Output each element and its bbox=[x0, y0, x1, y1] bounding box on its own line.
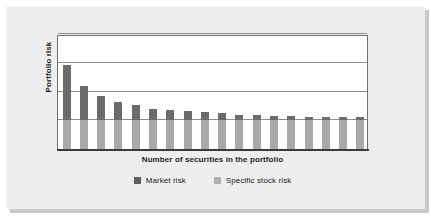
bar-segment-specific-stock-risk bbox=[356, 120, 364, 149]
bar-segment-specific-stock-risk bbox=[305, 120, 313, 149]
gridline bbox=[58, 33, 367, 34]
bar-segment-market-risk bbox=[63, 65, 71, 120]
legend-item-label: Specific stock risk bbox=[226, 176, 291, 185]
x-axis-baseline bbox=[57, 149, 369, 151]
bar-segment-market-risk bbox=[253, 115, 261, 120]
plot-area bbox=[57, 35, 368, 150]
bar-column bbox=[305, 117, 313, 149]
legend-item-label: Market risk bbox=[146, 176, 186, 185]
bar-segment-market-risk bbox=[287, 116, 295, 120]
bar-segment-market-risk bbox=[305, 117, 313, 120]
bar-segment-specific-stock-risk bbox=[132, 120, 140, 149]
y-axis-title: Portfolio risk bbox=[44, 12, 58, 122]
bar-segment-specific-stock-risk bbox=[339, 120, 347, 149]
bar-column bbox=[339, 117, 347, 149]
bar-segment-market-risk bbox=[235, 115, 243, 121]
bar-segment-specific-stock-risk bbox=[201, 120, 209, 149]
bar-segment-specific-stock-risk bbox=[218, 120, 226, 149]
bar-segment-specific-stock-risk bbox=[322, 120, 330, 149]
bar-segment-market-risk bbox=[339, 117, 347, 120]
bar-segment-specific-stock-risk bbox=[166, 120, 174, 149]
bar-segment-market-risk bbox=[184, 111, 192, 120]
bar-column bbox=[166, 110, 174, 149]
bar-segment-market-risk bbox=[356, 117, 364, 120]
risk-diversification-chart: Portfolio risk Number of securities in t… bbox=[0, 0, 431, 224]
bar-column bbox=[80, 86, 88, 149]
bar-segment-market-risk bbox=[80, 86, 88, 121]
bar-segment-specific-stock-risk bbox=[80, 120, 88, 149]
bar-segment-specific-stock-risk bbox=[149, 120, 157, 149]
bar-segment-specific-stock-risk bbox=[63, 120, 71, 149]
bar-column bbox=[132, 105, 140, 149]
bar-segment-specific-stock-risk bbox=[235, 120, 243, 149]
x-axis-title: Number of securities in the portfolio bbox=[57, 155, 368, 164]
bar-column bbox=[253, 115, 261, 149]
bar-column bbox=[322, 117, 330, 149]
bar-column bbox=[149, 109, 157, 149]
legend-item: Specific stock risk bbox=[214, 176, 291, 185]
bar-segment-market-risk bbox=[322, 117, 330, 120]
bar-segment-market-risk bbox=[166, 110, 174, 120]
bar-column bbox=[63, 65, 71, 149]
legend-swatch-market-risk bbox=[134, 177, 141, 184]
bars-layer bbox=[58, 36, 367, 149]
bar-segment-specific-stock-risk bbox=[114, 120, 122, 149]
bar-segment-market-risk bbox=[114, 102, 122, 120]
bar-column bbox=[97, 96, 105, 149]
chart-legend: Market riskSpecific stock risk bbox=[57, 176, 368, 185]
bar-column bbox=[356, 117, 364, 149]
bar-segment-market-risk bbox=[132, 105, 140, 120]
bar-column bbox=[184, 111, 192, 149]
bar-segment-specific-stock-risk bbox=[287, 120, 295, 149]
bar-column bbox=[235, 115, 243, 150]
bar-segment-market-risk bbox=[270, 116, 278, 121]
bar-segment-specific-stock-risk bbox=[97, 120, 105, 149]
plot-inner bbox=[58, 36, 367, 149]
bar-column bbox=[218, 113, 226, 149]
bar-column bbox=[287, 116, 295, 149]
figure-panel: Portfolio risk Number of securities in t… bbox=[0, 0, 431, 224]
bar-segment-market-risk bbox=[97, 96, 105, 120]
bar-column bbox=[201, 112, 209, 149]
bar-segment-specific-stock-risk bbox=[270, 120, 278, 149]
bar-column bbox=[114, 102, 122, 149]
legend-item: Market risk bbox=[134, 176, 186, 185]
legend-swatch-specific-stock-risk bbox=[214, 177, 221, 184]
bar-segment-specific-stock-risk bbox=[184, 120, 192, 149]
bar-segment-market-risk bbox=[201, 112, 209, 120]
bar-segment-market-risk bbox=[218, 113, 226, 120]
bar-column bbox=[270, 116, 278, 149]
bar-segment-market-risk bbox=[149, 109, 157, 121]
bar-segment-specific-stock-risk bbox=[253, 120, 261, 149]
